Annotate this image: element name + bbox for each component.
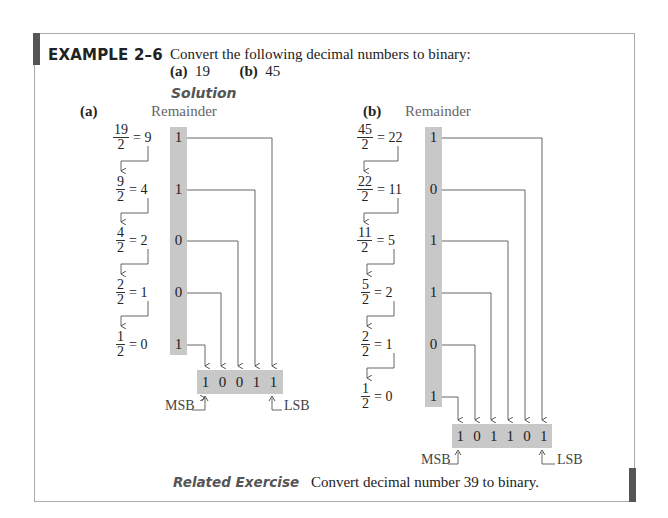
related-exercise-heading: Related Exercise — [173, 474, 299, 490]
related-exercise-text: Convert decimal number 39 to binary. — [311, 474, 539, 490]
connector-lines — [0, 0, 668, 518]
related-exercise: Related Exercise Convert decimal number … — [173, 474, 539, 491]
